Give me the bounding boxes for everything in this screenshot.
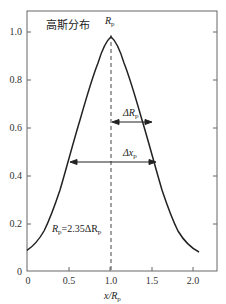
y-tick-label: 0.8 [10, 74, 23, 85]
gaussian-curve [27, 37, 199, 252]
x-tick-label: 1.5 [146, 275, 159, 286]
formula-annotation: Rp=2.35ΔRp [51, 223, 102, 236]
delta-rp-arrow [112, 120, 152, 125]
y-tick-labels: 0 0.2 0.4 0.6 0.8 1.0 [10, 26, 23, 277]
peak-label: Rp [104, 15, 115, 28]
y-tick-label: 0.4 [10, 170, 23, 181]
x-axis [69, 267, 193, 271]
delta-rp-label: ΔRp [122, 107, 139, 120]
delta-xp-arrow [70, 160, 156, 165]
x-tick-label: 2.0 [187, 275, 200, 286]
y-tick-label: 0.2 [10, 218, 23, 229]
gaussian-chart: 0 0.2 0.4 0.6 0.8 1.0 0 0.5 1.0 1.5 2.0 … [0, 0, 226, 304]
y-tick-label: 1.0 [10, 26, 23, 37]
x-tick-labels: 0 0.5 1.0 1.5 2.0 [26, 275, 200, 286]
x-tick-label: 1.0 [105, 275, 118, 286]
delta-xp-label: Δxp [122, 147, 137, 160]
y-tick-label: 0.6 [10, 122, 23, 133]
x-axis-label: x/Rp [103, 290, 121, 303]
y-tick-label: 0 [17, 266, 22, 277]
y-axis [27, 32, 217, 224]
x-tick-label: 0 [26, 275, 31, 286]
x-tick-label: 0.5 [63, 275, 76, 286]
chart-title: 高斯分布 [46, 18, 90, 32]
